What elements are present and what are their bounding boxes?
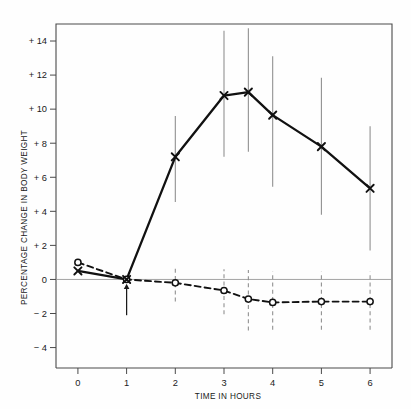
y-tick-label: + 4 (34, 207, 47, 217)
y-tick-label: + 12 (29, 70, 47, 80)
body-weight-change-chart: − 4− 20+ 2+ 4+ 6+ 8+ 10+ 12+ 14 0123456 … (0, 0, 411, 409)
data-point-marker-circle (75, 259, 81, 265)
y-tick-label: + 10 (29, 104, 47, 114)
y-tick-label: + 2 (34, 241, 47, 251)
x-tick-label: 0 (75, 378, 80, 388)
y-tick-label: + 6 (34, 173, 47, 183)
y-tick-label: − 4 (34, 343, 47, 353)
x-tick-label: 3 (221, 378, 226, 388)
x-tick-label: 1 (124, 378, 129, 388)
data-point-marker-circle (221, 287, 227, 293)
data-point-marker-circle (367, 298, 373, 304)
y-axis-title: PERCENTAGE CHANGE IN BODY WEIGHT (20, 130, 29, 305)
data-point-marker-circle (318, 298, 324, 304)
x-tick-label: 2 (173, 378, 178, 388)
y-tick-label: + 8 (34, 139, 47, 149)
y-tick-label: 0 (42, 275, 47, 285)
data-point-marker-circle (245, 296, 251, 302)
y-tick-label: − 2 (34, 309, 47, 319)
x-axis-title: TIME IN HOURS (195, 392, 262, 401)
y-tick-label: + 14 (29, 36, 47, 46)
x-tick-label: 4 (270, 378, 275, 388)
data-point-marker-circle (270, 299, 276, 305)
plot-background (0, 0, 411, 409)
x-tick-label: 5 (319, 378, 324, 388)
data-point-marker-circle (172, 280, 178, 286)
x-tick-label: 6 (368, 378, 373, 388)
figure-container: − 4− 20+ 2+ 4+ 6+ 8+ 10+ 12+ 14 0123456 … (0, 0, 411, 409)
